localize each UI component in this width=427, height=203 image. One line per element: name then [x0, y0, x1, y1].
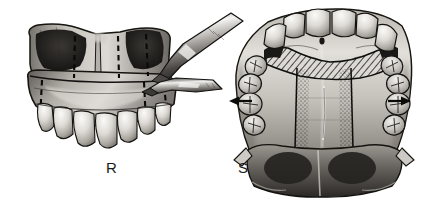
tooth-r-2	[53, 107, 73, 139]
panel-label-r: R	[106, 160, 117, 175]
panel-s	[229, 9, 414, 197]
tooth-s-central-left	[306, 9, 330, 37]
tooth-r-5	[117, 111, 137, 143]
tooth-s-lateral-right	[356, 13, 378, 38]
figure-container: R S	[0, 0, 427, 203]
pharyngeal-shadow-right	[328, 152, 376, 184]
tooth-s-central-right	[332, 9, 356, 37]
incisive-foramen	[319, 38, 324, 45]
tooth-r-1	[38, 103, 55, 131]
pharyngeal-shadow-left	[264, 152, 312, 184]
illustration-canvas	[0, 0, 427, 203]
tooth-s-lateral-left	[283, 13, 305, 38]
panel-label-s: S	[238, 160, 249, 175]
